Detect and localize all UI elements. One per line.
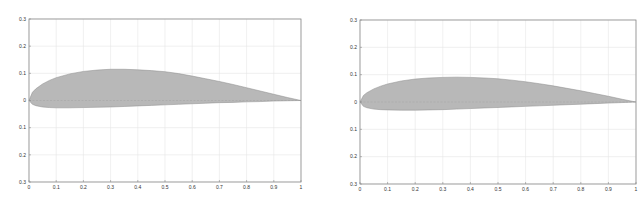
svg-text:0.4: 0.4	[467, 186, 474, 192]
svg-text:0.2: 0.2	[19, 43, 26, 49]
svg-text:0.2: 0.2	[412, 186, 419, 192]
svg-text:0: 0	[28, 184, 31, 190]
airfoil-shape	[29, 69, 301, 108]
svg-text:0.2: 0.2	[19, 152, 26, 158]
svg-text:0.5: 0.5	[495, 186, 502, 192]
svg-text:0.7: 0.7	[550, 186, 557, 192]
svg-text:0.1: 0.1	[19, 70, 26, 76]
svg-text:0.1: 0.1	[350, 71, 357, 77]
svg-text:0.3: 0.3	[350, 17, 357, 23]
svg-text:0.3: 0.3	[19, 179, 26, 185]
svg-text:0.3: 0.3	[350, 181, 357, 187]
chart-svg: 00.10.20.30.40.50.60.70.80.910.30.20.100…	[324, 0, 644, 209]
airfoil-chart-right: 00.10.20.30.40.50.60.70.80.910.30.20.100…	[324, 0, 644, 209]
svg-text:0.3: 0.3	[439, 186, 446, 192]
svg-text:1: 1	[635, 186, 638, 192]
svg-text:0.9: 0.9	[605, 186, 612, 192]
svg-text:1: 1	[300, 184, 303, 190]
svg-text:0.3: 0.3	[107, 184, 114, 190]
svg-text:0.5: 0.5	[162, 184, 169, 190]
svg-text:0.2: 0.2	[80, 184, 87, 190]
svg-text:0: 0	[354, 99, 357, 105]
svg-text:0: 0	[359, 186, 362, 192]
svg-text:0.3: 0.3	[19, 16, 26, 22]
svg-text:0.8: 0.8	[243, 184, 250, 190]
svg-text:0.1: 0.1	[19, 124, 26, 130]
chart-svg: 00.10.20.30.40.50.60.70.80.910.30.20.100…	[0, 0, 322, 209]
svg-text:0.8: 0.8	[577, 186, 584, 192]
svg-text:0.6: 0.6	[189, 184, 196, 190]
svg-text:0.9: 0.9	[270, 184, 277, 190]
svg-text:0.1: 0.1	[350, 126, 357, 132]
svg-text:0: 0	[23, 97, 26, 103]
svg-text:0.2: 0.2	[350, 44, 357, 50]
svg-text:0.1: 0.1	[384, 186, 391, 192]
svg-text:0.7: 0.7	[216, 184, 223, 190]
svg-text:0.6: 0.6	[522, 186, 529, 192]
svg-text:0.4: 0.4	[134, 184, 141, 190]
svg-text:0.2: 0.2	[350, 153, 357, 159]
svg-text:0.1: 0.1	[53, 184, 60, 190]
airfoil-shape	[360, 77, 636, 110]
airfoil-chart-left: 00.10.20.30.40.50.60.70.80.910.30.20.100…	[0, 0, 322, 209]
